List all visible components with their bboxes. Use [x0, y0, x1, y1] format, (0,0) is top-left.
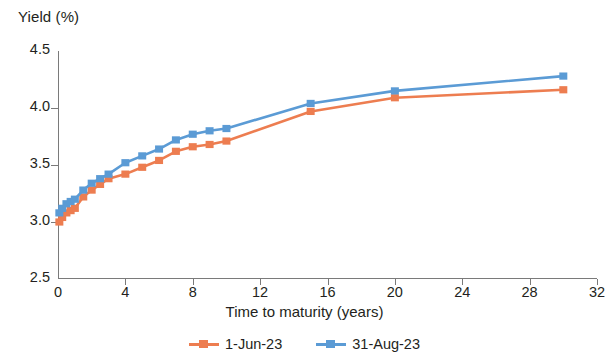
y-tick-mark — [51, 222, 58, 223]
x-tick-mark — [193, 279, 194, 285]
x-tick-mark — [530, 279, 531, 285]
y-tick-mark — [51, 108, 58, 109]
x-tick-label: 24 — [442, 284, 482, 300]
legend-item[interactable]: 1-Jun-23 — [189, 336, 282, 352]
y-tick-label: 2.5 — [4, 269, 50, 285]
x-tick-mark — [260, 279, 261, 285]
legend-swatch-icon — [316, 339, 346, 349]
legend-swatch-icon — [189, 339, 219, 349]
x-tick-label: 12 — [240, 284, 280, 300]
y-tick-label: 4.5 — [4, 41, 50, 57]
x-tick-mark — [125, 279, 126, 285]
x-tick-label: 28 — [510, 284, 550, 300]
x-axis-title: Time to maturity (years) — [0, 303, 609, 320]
x-tick-mark — [328, 279, 329, 285]
x-tick-label: 16 — [308, 284, 348, 300]
y-tick-label: 4.0 — [4, 98, 50, 114]
y-tick-mark — [51, 165, 58, 166]
x-tick-label: 0 — [38, 284, 78, 300]
legend-label: 1-Jun-23 — [225, 336, 282, 352]
y-tick-label: 3.0 — [4, 212, 50, 228]
y-tick-label: 3.5 — [4, 155, 50, 171]
chart-legend: 1-Jun-2331-Aug-23 — [0, 336, 609, 352]
legend-label: 31-Aug-23 — [352, 336, 420, 352]
x-tick-label: 8 — [173, 284, 213, 300]
y-axis-title: Yield (%) — [18, 8, 79, 25]
x-tick-mark — [597, 279, 598, 285]
yield-curve-chart: Yield (%) 2.53.03.54.04.5 04812162024283… — [0, 0, 609, 359]
legend-item[interactable]: 31-Aug-23 — [316, 336, 420, 352]
x-tick-label: 4 — [105, 284, 145, 300]
x-tick-mark — [395, 279, 396, 285]
x-tick-mark — [462, 279, 463, 285]
x-tick-label: 32 — [577, 284, 609, 300]
x-tick-label: 20 — [375, 284, 415, 300]
plot-area — [58, 51, 597, 279]
